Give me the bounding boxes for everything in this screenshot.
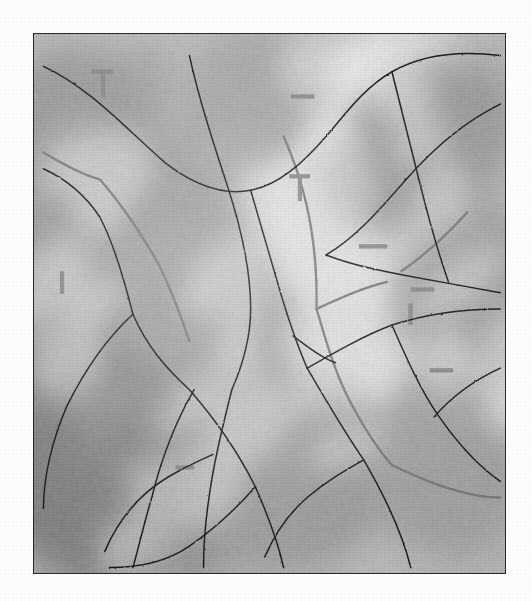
tick-vertical-west-lower — [60, 271, 64, 294]
map-title: Shaded relief map sheet — [0, 0, 1, 1]
tick-horizontal-east — [411, 287, 435, 291]
tick-horizontal-southeast — [430, 368, 454, 372]
tick-horizontal-north-east — [291, 94, 315, 98]
tick-horizontal-mid-east — [359, 244, 387, 248]
page-canvas: Shaded relief map sheet — [0, 0, 532, 601]
map-neatline-frame — [33, 33, 506, 574]
tick-horizontal-north-central — [289, 174, 310, 178]
tick-vertical-east — [408, 304, 412, 326]
map-drawing-surface — [34, 34, 505, 573]
scan-grain-overlay — [34, 34, 505, 573]
tick-horizontal-nw — [91, 70, 113, 74]
